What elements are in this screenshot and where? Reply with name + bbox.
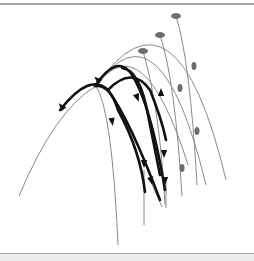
ellipse-marker-icon [171,13,181,19]
ellipse-marker-icon [192,62,197,70]
thin-tail [151,182,162,207]
ellipse-marker-icon [178,84,183,92]
arrowhead-icon [108,117,116,126]
thin-arc [96,86,118,245]
ellipse-marker-icon [180,164,185,172]
thin-arc [19,86,96,196]
gray-ellipse-markers [138,13,200,172]
bottom-band [0,253,254,261]
arrowhead-icon [158,88,164,96]
ellipse-marker-icon [138,48,148,54]
ellipse-marker-icon [155,32,165,38]
ellipse-marker-icon [195,127,200,135]
